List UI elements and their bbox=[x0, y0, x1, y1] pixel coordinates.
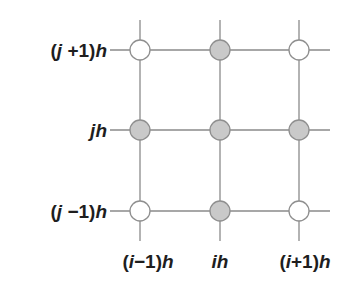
node-open bbox=[289, 201, 309, 221]
node-filled bbox=[289, 120, 309, 140]
row-label-j: jh bbox=[87, 120, 107, 141]
node-filled bbox=[210, 40, 230, 60]
grid-diagram: (j +1)h jh (j −1)h (i−1)h ih (i+1)h bbox=[0, 0, 359, 291]
col-label-i: ih bbox=[212, 251, 229, 272]
node-open bbox=[130, 40, 150, 60]
col-label-i-minus-1: (i−1)h bbox=[122, 251, 173, 272]
node-open bbox=[289, 40, 309, 60]
node-open bbox=[130, 201, 150, 221]
node-filled bbox=[210, 201, 230, 221]
col-label-i-plus-1: (i+1)h bbox=[279, 251, 330, 272]
node-filled bbox=[130, 120, 150, 140]
node-filled-center bbox=[210, 120, 230, 140]
row-label-j-plus-1: (j +1)h bbox=[51, 40, 108, 61]
row-label-j-minus-1: (j −1)h bbox=[51, 201, 108, 222]
